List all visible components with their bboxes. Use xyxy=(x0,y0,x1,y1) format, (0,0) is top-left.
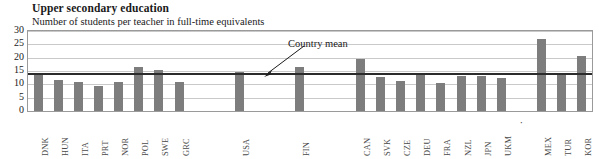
chart-figure: Upper secondary education Number of stud… xyxy=(0,0,599,159)
x-axis-tick-label: NZL xyxy=(465,139,473,156)
y-axis-tick-label: 10 xyxy=(0,78,24,88)
x-axis-tick-label: GRC xyxy=(183,138,191,156)
y-axis-tick-label: 25 xyxy=(0,38,24,48)
bar xyxy=(74,82,83,111)
page-title: Upper secondary education xyxy=(32,2,169,14)
x-axis-tick-label: HUN xyxy=(62,137,70,156)
x-axis-tick-label: MEX xyxy=(545,137,553,156)
x-axis-tick-label: UKM xyxy=(505,136,513,156)
gridline xyxy=(28,84,592,85)
bar xyxy=(577,56,586,111)
x-axis-tick-label: DEU xyxy=(424,138,432,156)
y-axis-tick-label: 0 xyxy=(0,105,24,115)
bar xyxy=(34,73,43,111)
x-axis-tick-label: FRA xyxy=(444,139,452,156)
y-axis: 302520151050 xyxy=(0,30,24,112)
x-axis-tick-label: SWE xyxy=(162,138,170,156)
x-axis-tick-label: KOR xyxy=(585,138,593,156)
x-axis-tick-label: CZE xyxy=(404,140,412,156)
bar xyxy=(497,78,506,111)
bar xyxy=(436,83,445,111)
bar xyxy=(94,86,103,111)
bar xyxy=(154,70,163,111)
x-axis-tick-label: ITA xyxy=(82,142,90,156)
x-axis-tick-label: SVK xyxy=(384,139,392,156)
bar xyxy=(396,81,405,111)
x-axis-tick-label: FIN xyxy=(303,142,311,156)
gridline xyxy=(28,58,592,59)
x-axis-tick-label: CAN xyxy=(364,138,372,156)
x-axis-tick-label: POL xyxy=(142,140,150,156)
y-axis-tick-label: 15 xyxy=(0,65,24,75)
bar xyxy=(457,76,466,111)
x-axis-tick-label: NOR xyxy=(122,138,130,156)
gridline xyxy=(28,31,592,32)
bar xyxy=(477,76,486,111)
gridline xyxy=(28,71,592,72)
bar xyxy=(557,74,566,111)
x-axis-tick-label: · xyxy=(520,118,524,126)
chart-subtitle: Number of students per teacher in full-t… xyxy=(32,16,264,27)
x-axis-tick-label: DNK xyxy=(42,137,50,156)
y-axis-tick-label: 5 xyxy=(0,92,24,102)
x-axis-tick-label: JPN xyxy=(485,141,493,156)
country-mean-line xyxy=(28,73,592,75)
country-mean-arrow-icon xyxy=(258,44,306,80)
bar xyxy=(175,82,184,111)
bar xyxy=(376,77,385,111)
x-axis-tick-label: USA xyxy=(243,139,251,156)
y-axis-tick-label: 20 xyxy=(0,52,24,62)
bar xyxy=(54,80,63,111)
bar xyxy=(114,82,123,111)
y-axis-tick-label: 30 xyxy=(0,25,24,35)
bar xyxy=(537,39,546,111)
gridline xyxy=(28,98,592,99)
x-axis-tick-label: PRT xyxy=(102,141,110,156)
x-axis-tick-label: TUR xyxy=(565,139,573,156)
bar xyxy=(416,74,425,111)
bar xyxy=(235,72,244,111)
bar xyxy=(356,59,365,111)
